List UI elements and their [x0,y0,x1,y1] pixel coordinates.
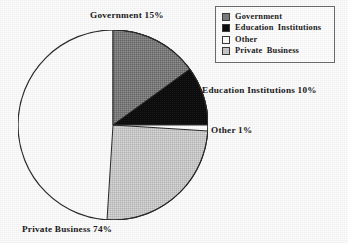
legend-item-government: Government [222,11,329,23]
legend-swatch-government [222,13,230,21]
legend-swatch-education-institutions [222,24,230,32]
slice-label-private-business: Private Business 74% [22,225,112,234]
slice-label-education-institutions: Education Institutions 10% [202,86,317,95]
legend-swatch-private-business [222,47,230,55]
legend-label-government: Government [235,13,282,21]
slice-label-government: Government 15% [90,11,164,20]
legend-item-private-business: Private Business [222,46,329,58]
legend-item-education-institutions: Education Institutions [222,23,329,35]
pie-chart [18,30,208,220]
legend-label-private-business: Private Business [235,47,299,55]
slice-label-other: Other 1% [211,126,252,135]
legend-item-other: Other [222,34,329,46]
legend-label-other: Other [235,36,257,44]
pie-chart-figure: Government 15% Education Institutions 10… [0,0,348,243]
chart-legend: Government Education Institutions Other … [215,6,335,63]
legend-label-education-institutions: Education Institutions [235,24,321,32]
legend-swatch-other [222,36,230,44]
pie-chart-svg [18,30,208,220]
